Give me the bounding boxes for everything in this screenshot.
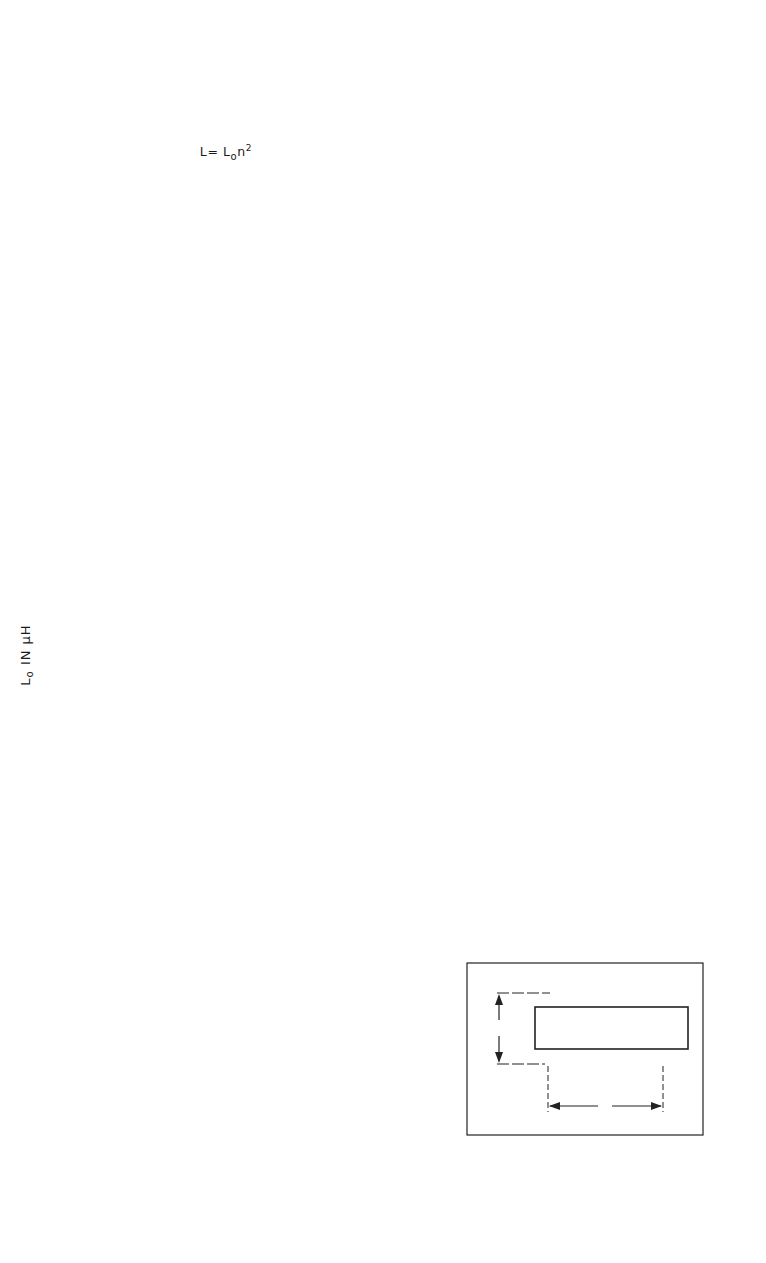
coil-former <box>535 1007 688 1049</box>
y-axis-title: Lo IN µH <box>18 624 35 685</box>
inductance-chart: L= Lon2 Lo IN µH <box>0 0 766 1263</box>
annotation-box: L= Lon2 <box>152 81 322 176</box>
coil-inset-diagram <box>467 963 703 1135</box>
